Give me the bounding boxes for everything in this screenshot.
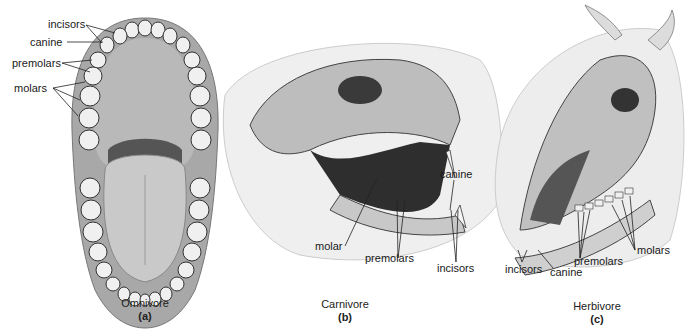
illustration-canvas — [0, 0, 694, 333]
label-herbivore-canine: canine — [550, 266, 582, 278]
caption-carnivore-letter: (b) — [305, 311, 385, 324]
caption-herbivore-title: Herbivore — [573, 300, 621, 312]
carnivore-skull-illustration — [223, 43, 502, 262]
label-herbivore-incisors: incisors — [505, 263, 542, 275]
caption-omnivore: Omnivore (a) — [105, 297, 185, 323]
label-herbivore-molars: molars — [637, 244, 670, 256]
caption-carnivore-title: Carnivore — [321, 298, 369, 310]
label-omnivore-molars: molars — [14, 82, 47, 94]
caption-omnivore-letter: (a) — [105, 310, 185, 323]
caption-herbivore-letter: (c) — [557, 313, 637, 326]
caption-omnivore-title: Omnivore — [121, 297, 169, 309]
caption-herbivore: Herbivore (c) — [557, 300, 637, 326]
label-carnivore-incisors: incisors — [437, 262, 474, 274]
label-carnivore-canine: canine — [440, 168, 472, 180]
label-carnivore-molar: molar — [315, 240, 343, 252]
label-omnivore-premolars: premolars — [12, 57, 61, 69]
label-omnivore-canine: canine — [30, 36, 62, 48]
herbivore-skull-illustration — [495, 5, 684, 275]
omnivore-mouth-illustration — [53, 18, 218, 328]
label-carnivore-premolars: premolars — [365, 252, 414, 264]
label-omnivore-incisors: incisors — [48, 18, 85, 30]
caption-carnivore: Carnivore (b) — [305, 298, 385, 324]
